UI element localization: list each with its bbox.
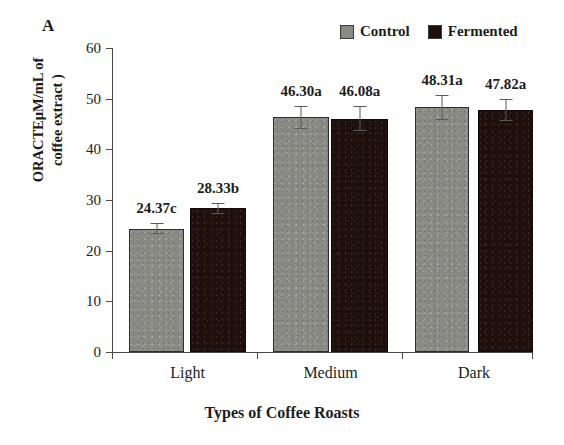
y-axis-tick-label: 10 (86, 293, 101, 310)
error-bar-cap-top (212, 203, 225, 204)
error-bar-cap-top (436, 95, 449, 96)
bar-light-fermented (190, 208, 246, 352)
y-axis-tick (106, 251, 112, 252)
y-axis-tick (106, 99, 112, 100)
legend-item-control: Control (340, 24, 410, 39)
value-label: 46.30a (280, 83, 321, 100)
y-axis-tick (106, 149, 112, 150)
y-axis-tick (106, 200, 112, 201)
y-axis-tick (106, 48, 112, 49)
y-axis-tick-label: 60 (86, 40, 101, 57)
y-axis-tick-label: 40 (86, 141, 101, 158)
error-bar-cap-top (150, 223, 163, 224)
bar-medium-control (273, 117, 329, 352)
x-axis-tick (112, 352, 113, 359)
bar-dark-control (415, 107, 469, 352)
x-axis-tick (532, 352, 533, 359)
bar-dark-fermented (478, 110, 533, 352)
y-axis-tick (106, 301, 112, 302)
orac-bar-chart-figure: A Control Fermented ORACTEμM/mL of coffe… (0, 0, 564, 445)
y-axis-tick-label: 0 (94, 344, 102, 361)
bar-light-control (129, 229, 184, 352)
plot-area: 0102030405060 24.37c28.33b46.30a46.08a48… (112, 48, 533, 352)
x-axis-title: Types of Coffee Roasts (0, 404, 564, 422)
y-axis-tick-label: 50 (86, 90, 101, 107)
x-axis-line (112, 352, 533, 353)
value-label: 48.31a (421, 72, 462, 89)
value-label: 47.82a (485, 76, 526, 93)
y-axis-tick-label: 20 (86, 242, 101, 259)
legend-label-fermented: Fermented (448, 24, 518, 39)
x-axis-category-label-light: Light (170, 364, 205, 382)
error-bar-cap-top (295, 106, 308, 107)
legend-item-fermented: Fermented (428, 24, 518, 39)
y-axis-title-line-2: coffee extract ) (48, 74, 67, 166)
x-axis-tick (402, 352, 403, 359)
bar-medium-fermented (331, 119, 388, 352)
chart-legend: Control Fermented (340, 24, 518, 39)
x-axis-tick (257, 352, 258, 359)
x-axis-category-label-medium: Medium (303, 364, 357, 382)
error-bar-cap-top (499, 99, 512, 100)
value-label: 46.08a (339, 83, 380, 100)
y-axis-tick-label: 30 (86, 192, 101, 209)
error-bar-cap-top (353, 106, 366, 107)
legend-label-control: Control (360, 24, 410, 39)
value-label: 28.33b (197, 180, 239, 197)
x-axis-category-label-dark: Dark (458, 364, 490, 382)
legend-swatch-fermented (428, 25, 442, 39)
y-axis-title-line-1: ORACTEμM/mL of (29, 58, 48, 183)
y-axis-title: ORACTEμM/mL of coffee extract ) (28, 10, 68, 230)
legend-swatch-control (340, 25, 354, 39)
value-label: 24.37c (136, 200, 176, 217)
y-axis-line (112, 48, 113, 353)
